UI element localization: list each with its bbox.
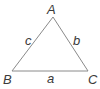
vertex-label-c: C: [88, 72, 98, 87]
vertex-label-b: B: [3, 72, 12, 87]
vertex-label-a: A: [46, 2, 56, 17]
triangle-diagram: A B C a b c: [0, 0, 100, 89]
side-label-a: a: [47, 71, 54, 86]
side-label-b: b: [73, 33, 80, 48]
side-label-c: c: [25, 33, 32, 48]
